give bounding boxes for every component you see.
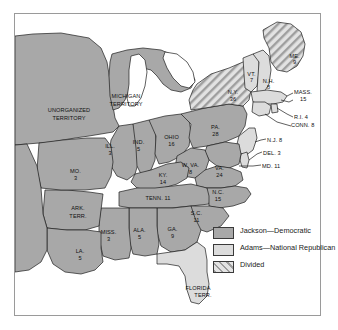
label-il-name: ILL. bbox=[105, 143, 115, 149]
legend-swatch-divided bbox=[213, 261, 234, 273]
label-sc-votes: 11 bbox=[193, 217, 199, 223]
label-il-votes: 3 bbox=[108, 150, 111, 156]
label-ri: R.I. 4 bbox=[294, 114, 308, 120]
label-mich-line2: TERRITORY bbox=[109, 101, 142, 107]
legend-swatch-jackson bbox=[213, 227, 234, 239]
leader-conn bbox=[265, 114, 291, 126]
label-oh-name: OHIO bbox=[164, 134, 179, 140]
label-vt-name: VT. bbox=[247, 71, 256, 77]
label-md: MD. 11 bbox=[262, 163, 280, 169]
label-fla-line2: TERR. bbox=[194, 292, 212, 298]
label-wva-name: W. VA. bbox=[182, 162, 200, 168]
legend-item-jackson[interactable]: Jackson—Democratic bbox=[213, 226, 338, 239]
map-legend: Jackson—Democratic Adams—National Republ… bbox=[213, 226, 338, 277]
label-pa-votes: 28 bbox=[212, 131, 218, 137]
label-la-votes: 5 bbox=[78, 255, 81, 261]
label-me-name: ME. bbox=[289, 53, 300, 59]
legend-label-adams: Adams—National Republican bbox=[240, 243, 335, 253]
label-la-name: LA. bbox=[76, 248, 85, 254]
label-oh-votes: 16 bbox=[168, 141, 174, 147]
label-miss-votes: 3 bbox=[107, 236, 110, 242]
label-fla-line1: FLORIDA bbox=[186, 285, 211, 291]
leader-mass bbox=[287, 93, 293, 96]
state-ri[interactable] bbox=[271, 104, 278, 113]
label-ny-name: N.Y. bbox=[228, 89, 239, 95]
state-il[interactable] bbox=[109, 124, 138, 180]
label-me-votes: 9 bbox=[293, 59, 296, 65]
state-del[interactable] bbox=[240, 152, 249, 168]
label-ark-line1: ARK. bbox=[71, 205, 85, 211]
legend-label-divided: Divided bbox=[240, 260, 264, 270]
label-unorg-line2: TERRITORY bbox=[52, 115, 85, 121]
state-mo[interactable] bbox=[37, 138, 113, 190]
state-unorg[interactable] bbox=[15, 33, 119, 145]
label-ky-name: KY. bbox=[159, 172, 168, 178]
label-mass-name: MASS. bbox=[294, 89, 312, 95]
map-frame: ME. 9 VT. 7 N.H. 8 N.Y. 36 MASS. 15 R.I.… bbox=[14, 13, 321, 316]
label-va-name: VA. bbox=[215, 165, 224, 171]
label-in-votes: 5 bbox=[137, 146, 140, 152]
label-va-votes: 24 bbox=[216, 172, 222, 178]
label-tn: TENN. 11 bbox=[146, 195, 171, 201]
legend-swatch-adams bbox=[213, 244, 234, 256]
label-ny-votes: 36 bbox=[230, 96, 236, 102]
label-mo-votes: 3 bbox=[74, 175, 77, 181]
label-nh-votes: 8 bbox=[267, 84, 270, 90]
label-ky-votes: 14 bbox=[160, 179, 166, 185]
label-vt-votes: 7 bbox=[250, 77, 253, 83]
label-ala-votes: 5 bbox=[138, 234, 141, 240]
label-ark-line2: TERR. bbox=[69, 213, 87, 219]
label-unorg-line1: UNORGANIZED bbox=[48, 107, 90, 113]
label-nj: N.J. 8 bbox=[267, 137, 282, 143]
label-nh-name: N.H. bbox=[263, 78, 275, 84]
label-del: DEL. 3 bbox=[263, 150, 281, 156]
legend-label-jackson: Jackson—Democratic bbox=[240, 226, 311, 236]
leader-del bbox=[249, 152, 262, 160]
label-wva-votes: 8 bbox=[189, 169, 192, 175]
legend-item-divided[interactable]: Divided bbox=[213, 260, 338, 273]
leader-ri bbox=[277, 108, 293, 117]
label-ga-name: GA. bbox=[168, 226, 178, 232]
label-nc-votes: 15 bbox=[215, 196, 221, 202]
label-in-name: IND. bbox=[133, 139, 145, 145]
label-pa-name: PA. bbox=[211, 124, 220, 130]
state-conn[interactable] bbox=[252, 102, 271, 116]
label-mass-votes: 15 bbox=[300, 96, 306, 102]
label-ga-votes: 9 bbox=[171, 233, 174, 239]
label-mo-name: MO. bbox=[70, 168, 81, 174]
label-miss-name: MISS. bbox=[101, 229, 117, 235]
label-mich-line1: MICHIGAN bbox=[112, 93, 141, 99]
legend-item-adams[interactable]: Adams—National Republican bbox=[213, 243, 338, 256]
label-ala-name: ALA. bbox=[133, 227, 146, 233]
label-conn: CONN. 8 bbox=[291, 122, 314, 128]
label-sc-name: S.C. bbox=[191, 210, 203, 216]
label-nc-name: N.C. bbox=[212, 189, 224, 195]
